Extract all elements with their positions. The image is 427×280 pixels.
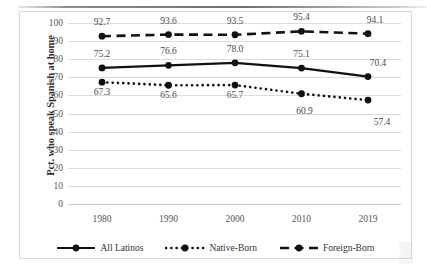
legend-item-native-born[interactable]: Native-Born (165, 242, 257, 254)
y-axis-tick-label: 50 (54, 109, 64, 119)
data-point-label: 93.5 (227, 16, 244, 26)
x-axis-tick-label: 1990 (159, 214, 178, 224)
data-point-label: 65.6 (160, 90, 177, 100)
data-point-label: 76.6 (160, 46, 177, 56)
x-axis-tick-label: 2019 (359, 214, 378, 224)
y-axis-tick-label: 80 (54, 54, 64, 64)
data-point-label: 67.3 (94, 87, 111, 97)
y-axis-tick-label: 30 (54, 145, 64, 155)
y-axis-tick-label: 40 (54, 127, 64, 137)
y-axis-tick-label: 90 (54, 36, 64, 46)
chart-legend: All LatinosNative-BornForeign-Born (19, 238, 412, 258)
data-point-marker[interactable] (232, 31, 239, 38)
data-point-marker[interactable] (99, 79, 106, 86)
data-point-marker[interactable] (298, 90, 305, 97)
y-axis-tick-label: 70 (54, 72, 64, 82)
data-point-label: 92.7 (94, 17, 111, 27)
data-point-label: 94.1 (367, 15, 384, 25)
y-axis-tick-label: 10 (54, 181, 64, 191)
legend-label: Foreign-Born (323, 243, 375, 253)
watermark-icon (399, 242, 413, 264)
legend-item-foreign-born[interactable]: Foreign-Born (279, 242, 375, 254)
data-point-label: 75.2 (94, 49, 111, 59)
data-point-marker[interactable] (365, 97, 372, 104)
data-point-marker[interactable] (99, 33, 106, 40)
data-point-label: 93.6 (160, 16, 177, 26)
legend-swatch-solid (56, 242, 96, 254)
data-point-label: 70.4 (370, 58, 387, 68)
data-point-marker[interactable] (99, 64, 106, 71)
x-axis-tick-label: 2000 (226, 214, 245, 224)
y-axis-tick-label: 0 (58, 199, 63, 209)
data-point-marker[interactable] (165, 31, 172, 38)
data-point-label: 57.4 (374, 117, 391, 127)
chart-figure: Pct. who speak Spanish at home 100908070… (19, 11, 412, 259)
x-axis-tick-label: 1980 (93, 214, 112, 224)
legend-label: Native-Born (209, 243, 257, 253)
data-point-marker[interactable] (298, 65, 305, 72)
data-point-label: 95.4 (293, 12, 310, 22)
data-point-marker[interactable] (365, 73, 372, 80)
legend-swatch-dotted (165, 242, 205, 254)
data-point-marker[interactable] (232, 59, 239, 66)
legend-item-all-latinos[interactable]: All Latinos (56, 242, 143, 254)
data-point-marker[interactable] (298, 28, 305, 35)
data-point-marker[interactable] (165, 62, 172, 69)
data-point-marker[interactable] (365, 30, 372, 37)
x-axis-tick-label: 2010 (292, 214, 311, 224)
y-axis-tick-label: 20 (54, 163, 64, 173)
y-axis-tick-label: 100 (49, 18, 63, 28)
data-point-label: 78.0 (227, 44, 244, 54)
x-axis-line (68, 204, 401, 205)
data-point-label: 60.9 (296, 106, 313, 116)
y-axis-tick-label: 60 (54, 90, 64, 100)
data-point-label: 75.1 (293, 49, 310, 59)
legend-label: All Latinos (100, 243, 143, 253)
plot-area: 1009080706050403020100 19801990200020102… (68, 23, 401, 204)
data-point-marker[interactable] (232, 82, 239, 89)
data-point-marker[interactable] (165, 82, 172, 89)
legend-swatch-dashed (279, 242, 319, 254)
page-top-rule (18, 6, 427, 8)
data-point-label: 65.7 (227, 90, 244, 100)
